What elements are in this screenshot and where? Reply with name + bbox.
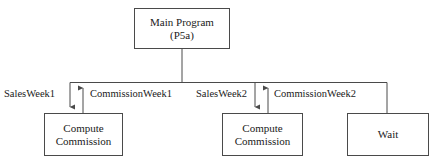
node-wait-line1: Wait bbox=[378, 128, 399, 141]
edge-label-commission-week-2: CommissionWeek2 bbox=[274, 88, 356, 100]
diagram-canvas: Main Program (P5a) Compute Commission Co… bbox=[0, 0, 438, 164]
node-main-program[interactable]: Main Program (P5a) bbox=[134, 8, 230, 49]
node-wait[interactable]: Wait bbox=[347, 113, 429, 156]
edge-label-sales-week-2: SalesWeek2 bbox=[196, 88, 247, 100]
node-compute-commission-1-line1: Compute bbox=[63, 122, 103, 135]
node-compute-commission-2[interactable]: Compute Commission bbox=[222, 113, 303, 156]
node-main-program-line1: Main Program bbox=[150, 16, 214, 29]
node-compute-commission-1-line2: Commission bbox=[56, 135, 112, 148]
edge-label-commission-week-1: CommissionWeek1 bbox=[90, 88, 172, 100]
edge-label-sales-week-1: SalesWeek1 bbox=[4, 88, 55, 100]
node-compute-commission-1[interactable]: Compute Commission bbox=[44, 113, 123, 156]
node-compute-commission-2-line2: Commission bbox=[235, 135, 291, 148]
node-compute-commission-2-line1: Compute bbox=[242, 122, 282, 135]
node-main-program-line2: (P5a) bbox=[170, 29, 194, 42]
